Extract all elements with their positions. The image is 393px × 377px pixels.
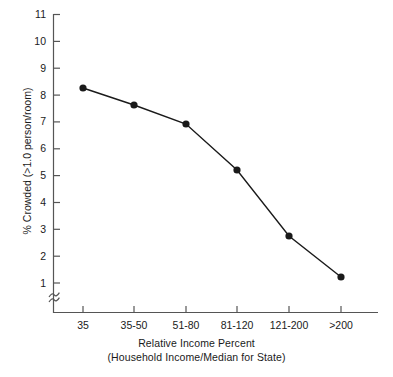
data-point <box>233 166 240 173</box>
y-axis-ticks <box>54 15 61 284</box>
axis-break-icon <box>49 293 59 302</box>
data-point <box>130 101 137 108</box>
y-tick-label-10: 10 <box>26 35 46 47</box>
y-tick-label-11: 11 <box>26 8 46 20</box>
x-tick-label-6: >200 <box>311 319 371 331</box>
x-axis-title-line1: Relative Income Percent <box>0 337 393 349</box>
x-tick-label-5: 121-200 <box>259 319 319 331</box>
x-tick-label-4: 81-120 <box>207 319 267 331</box>
data-markers <box>79 84 344 280</box>
data-point <box>285 232 292 239</box>
data-point <box>182 120 189 127</box>
x-axis-title-line2: (Household Income/Median for State) <box>0 351 393 363</box>
y-axis-title: % Crowded (>1.0 person/room) <box>21 61 33 261</box>
data-point <box>79 84 86 91</box>
data-line-series-1 <box>83 88 341 277</box>
y-tick-label-1: 1 <box>26 277 46 289</box>
chart-container: 11 10 9 8 7 6 5 4 3 2 1 35 35-50 51-80 8… <box>0 0 393 377</box>
data-point <box>337 273 344 280</box>
x-axis-ticks <box>83 306 341 313</box>
x-tick-label-2: 35-50 <box>104 319 164 331</box>
